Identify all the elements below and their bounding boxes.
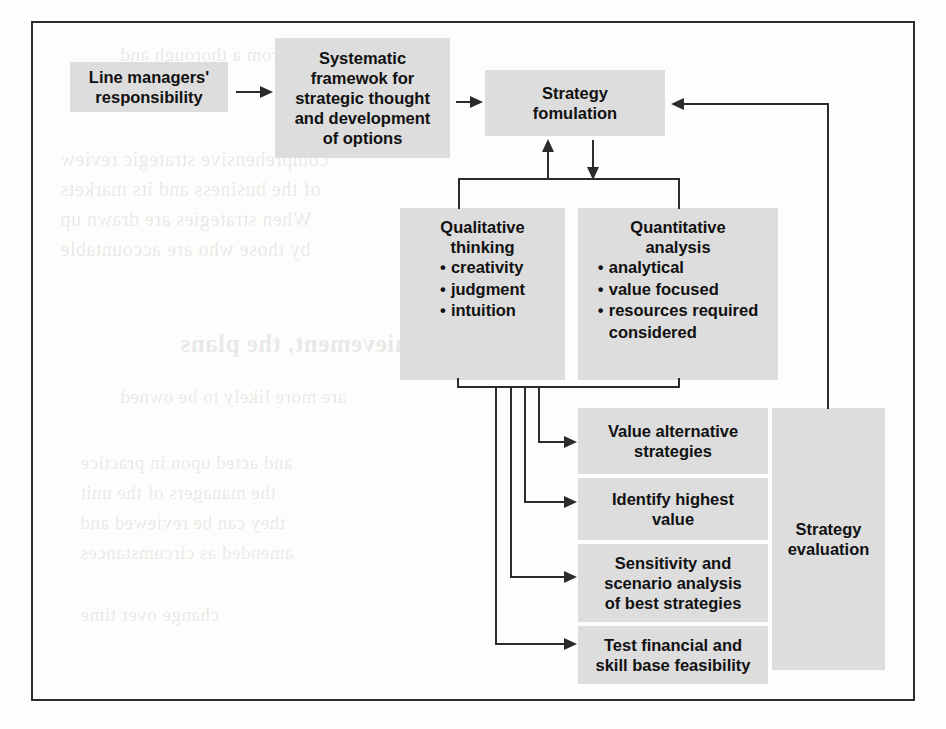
box-quantitative-analysis-line2: analysis <box>645 237 710 257</box>
box-strategy-formulation-line1: Strategy <box>542 83 608 103</box>
branch-test-feasibility-horizontal <box>495 643 566 645</box>
box-sensitivity-scenario-line1: Sensitivity and <box>615 553 731 573</box>
list-item: •considered <box>598 322 758 343</box>
diagram-page: Results from a thorough and comprehensiv… <box>0 0 946 729</box>
box-strategy-formulation[interactable]: Strategy fomulation <box>485 70 665 136</box>
bracket-top-horizontal <box>458 178 680 180</box>
arrowhead-value-alternative <box>564 436 577 448</box>
list-item: •analytical <box>598 257 758 278</box>
box-identify-highest-line1: Identify highest <box>612 489 734 509</box>
box-qualitative-thinking-line1: Qualitative <box>440 217 524 237</box>
bullet-label: considered <box>609 323 697 341</box>
bullet-label: value focused <box>609 280 719 298</box>
branch-value-alternative-horizontal <box>538 441 566 443</box>
feedback-loop-vertical <box>827 103 829 409</box>
bullet-label: analytical <box>609 258 684 276</box>
branch-sensitivity-horizontal <box>510 576 566 578</box>
box-sensitivity-scenario-line3: of best strategies <box>605 593 742 613</box>
list-item: •resources required <box>598 300 758 321</box>
box-qualitative-thinking[interactable]: Qualitative thinking •creativity •judgme… <box>400 208 565 380</box>
box-strategy-formulation-line2: fomulation <box>533 103 617 123</box>
box-value-alternative-line1: Value alternative <box>608 421 738 441</box>
box-strategy-evaluation-line1: Strategy <box>795 519 861 539</box>
box-identify-highest-line2: value <box>652 509 694 529</box>
box-systematic-framework-line2: framewok for <box>311 68 415 88</box>
bullet-label: intuition <box>451 301 516 319</box>
box-identify-highest-value[interactable]: Identify highest value <box>578 478 768 540</box>
bullet-label: resources required <box>609 301 758 319</box>
bullet-label: judgment <box>451 280 525 298</box>
branch-sensitivity-vertical <box>510 386 512 578</box>
branch-identify-highest-vertical <box>524 386 526 503</box>
arrowhead-framework-to-strategy <box>470 96 483 108</box>
arrowhead-strategy-to-analysis <box>587 167 599 180</box>
arrowhead-identify-highest <box>564 496 577 508</box>
connector-analysis-to-strategy <box>547 150 549 180</box>
box-value-alternative-line2: strategies <box>634 441 712 461</box>
feedback-loop-horizontal <box>684 103 829 105</box>
bracket-top-left-stem <box>458 178 460 209</box>
list-item: •intuition <box>440 300 525 321</box>
arrowhead-feedback-loop <box>671 98 684 110</box>
box-line-managers-line1: Line managers' <box>89 67 209 87</box>
arrowhead-sensitivity <box>564 571 577 583</box>
list-item: •judgment <box>440 279 525 300</box>
box-qualitative-thinking-line2: thinking <box>450 237 514 257</box>
box-line-managers-line2: responsibility <box>95 87 202 107</box>
arrowhead-managers-to-framework <box>260 86 273 98</box>
box-value-alternative-strategies[interactable]: Value alternative strategies <box>578 408 768 474</box>
box-qualitative-thinking-bullets: •creativity •judgment •intuition <box>440 257 525 321</box>
branch-test-feasibility-vertical <box>495 386 497 645</box>
box-strategy-evaluation[interactable]: Strategy evaluation <box>772 408 885 670</box>
box-line-managers[interactable]: Line managers' responsibility <box>70 62 228 112</box>
box-systematic-framework-line5: of options <box>323 128 403 148</box>
box-sensitivity-scenario-line2: scenario analysis <box>604 573 742 593</box>
box-systematic-framework-line1: Systematic <box>319 48 406 68</box>
box-quantitative-analysis[interactable]: Quantitative analysis •analytical •value… <box>578 208 778 380</box>
box-quantitative-analysis-line1: Quantitative <box>630 217 725 237</box>
branch-identify-highest-horizontal <box>524 501 566 503</box>
bracket-bottom-right-stem <box>678 378 680 388</box>
box-sensitivity-scenario-analysis[interactable]: Sensitivity and scenario analysis of bes… <box>578 544 768 622</box>
box-test-feasibility[interactable]: Test financial and skill base feasibilit… <box>578 626 768 684</box>
connector-managers-to-framework <box>236 91 262 93</box>
bracket-bottom-horizontal <box>457 386 680 388</box>
box-test-feasibility-line2: skill base feasibility <box>596 655 751 675</box>
bullet-label: creativity <box>451 258 523 276</box>
connector-strategy-to-analysis <box>592 140 594 169</box>
box-systematic-framework[interactable]: Systematic framewok for strategic though… <box>275 38 450 158</box>
box-test-feasibility-line1: Test financial and <box>604 635 742 655</box>
list-item: •creativity <box>440 257 525 278</box>
bracket-bottom-left-stem <box>457 378 459 388</box>
box-quantitative-analysis-bullets: •analytical •value focused •resources re… <box>598 257 758 343</box>
box-systematic-framework-line3: strategic thought <box>295 88 430 108</box>
box-systematic-framework-line4: and development <box>295 108 431 128</box>
bracket-top-right-stem <box>678 178 680 209</box>
branch-value-alternative-vertical <box>538 386 540 443</box>
arrowhead-test-feasibility <box>564 638 577 650</box>
box-strategy-evaluation-line2: evaluation <box>788 539 870 559</box>
arrowhead-analysis-to-strategy <box>542 139 554 152</box>
list-item: •value focused <box>598 279 758 300</box>
